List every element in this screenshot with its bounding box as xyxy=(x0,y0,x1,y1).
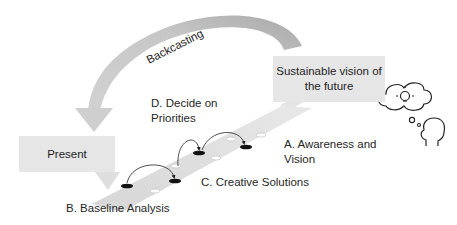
head-silhouette-icon xyxy=(421,118,444,146)
present-box: Present xyxy=(19,136,115,172)
step-d-line2: Priorities xyxy=(151,111,217,126)
step-a-line2: Vision xyxy=(284,152,377,167)
future-line2: the future xyxy=(305,79,354,94)
lightbulb-cloud-icon xyxy=(379,83,432,110)
step-d-line1: D. Decide on xyxy=(151,96,217,111)
present-label: Present xyxy=(47,147,87,162)
step-d-label: D. Decide on Priorities xyxy=(151,96,217,126)
step-a-line1: A. Awareness and xyxy=(284,137,377,152)
step-b-label: B. Baseline Analysis xyxy=(66,201,170,216)
future-vision-box: Sustainable vision of the future xyxy=(273,56,385,102)
step-a-label: A. Awareness and Vision xyxy=(284,137,377,167)
thought-bubble-icon xyxy=(409,117,420,126)
future-line1: Sustainable vision of xyxy=(276,64,381,79)
backcasting-diagram: Backcasting xyxy=(0,0,457,225)
present-connector xyxy=(95,172,120,190)
step-c-label: C. Creative Solutions xyxy=(201,175,309,190)
